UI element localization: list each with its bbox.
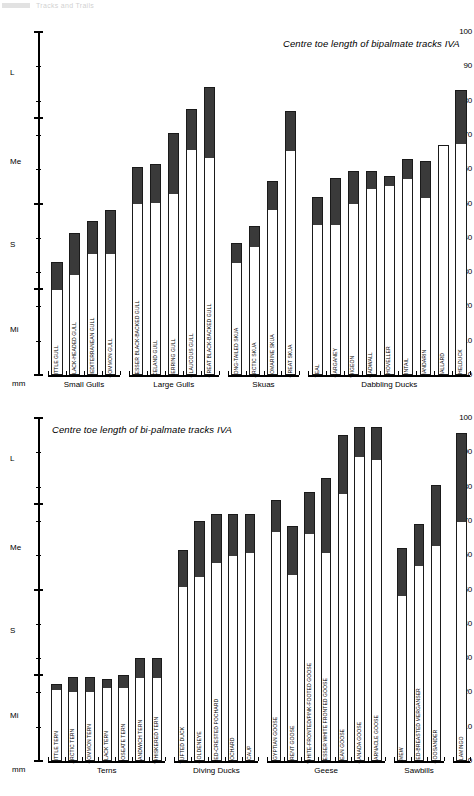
- bar-range-segment: [86, 678, 94, 692]
- bar: [371, 427, 381, 761]
- group-label: Large Gulls: [129, 380, 219, 389]
- bar-range-segment: [119, 676, 127, 688]
- bar: [384, 176, 395, 375]
- bar: [245, 514, 255, 761]
- bar-category-label: COMMON GULL: [108, 338, 113, 377]
- bar-category-label: ARCTIC TERN: [70, 729, 75, 764]
- y-axis-tick: [36, 272, 41, 273]
- group-bracket-tick: [98, 757, 99, 761]
- bar-range-segment: [415, 525, 423, 566]
- group-bracket-tick: [48, 371, 49, 375]
- bar-range-segment: [331, 179, 340, 225]
- group-baseline: [48, 375, 120, 377]
- bar: [456, 433, 466, 761]
- group-bracket-tick: [258, 757, 259, 761]
- group-bracket-tick: [434, 371, 435, 375]
- group-bracket-tick: [174, 757, 175, 761]
- bar: [438, 145, 449, 375]
- group-baseline: [308, 375, 470, 377]
- group-bracket-tick: [416, 371, 417, 375]
- group-bracket-tick: [191, 757, 192, 761]
- bar-category-label: HERRING GULL: [170, 339, 175, 378]
- size-class-label: Me: [10, 544, 21, 552]
- group-bracket-tick: [284, 757, 285, 761]
- y-axis-tick-label: 100: [442, 414, 472, 422]
- group-label: Diving Ducks: [174, 766, 258, 775]
- plot-area-top: 0102030405060708090100mmLMeSMiCentre toe…: [0, 14, 472, 396]
- bar: [397, 548, 407, 761]
- bar-range-segment: [52, 263, 61, 290]
- bar-category-label: POCHARD: [230, 738, 235, 764]
- bar-category-label: SANDWICH TERN: [137, 720, 142, 764]
- group-bracket-tick: [208, 757, 209, 761]
- group-bracket-tick: [301, 757, 302, 761]
- y-axis-tick: [34, 674, 43, 676]
- group-bracket-tick: [48, 757, 49, 761]
- group-bracket-tick: [452, 371, 453, 375]
- bar-range-segment: [88, 222, 97, 255]
- bar-category-label: POMARINE SKUA: [269, 334, 274, 377]
- chart-title: Centre toe length of bi-palmate tracks I…: [52, 424, 232, 435]
- plot-area-bottom: 0102030405060708090100mmLMeSMiCentre toe…: [0, 400, 472, 796]
- chart-bi-palmate: 0102030405060708090100mmLMeSMiCentre toe…: [0, 400, 472, 796]
- group-bracket-tick: [84, 371, 85, 375]
- bar-category-label: FLAMINGO: [458, 736, 463, 763]
- bar-category-label: GOOSANDER: [433, 730, 438, 764]
- y-axis-tick: [34, 417, 43, 419]
- y-axis-tick: [36, 66, 41, 67]
- group-bracket-tick: [66, 371, 67, 375]
- chart-bipalmate: 0102030405060708090100mmLMeSMiCentre toe…: [0, 14, 472, 396]
- bar-category-label: GLAUCOUS GULL: [188, 333, 193, 377]
- group-baseline: [453, 761, 470, 763]
- bar-range-segment: [187, 110, 196, 149]
- size-class-label: Mi: [10, 326, 18, 334]
- group-bracket-tick: [115, 757, 116, 761]
- group-bracket-tick: [281, 371, 282, 375]
- bar-range-segment: [229, 515, 237, 556]
- bar-category-label: LESSER BLACK-BACKED GULL: [135, 301, 140, 378]
- bar-category-label: GOLDENEYE: [196, 731, 201, 763]
- bar-range-segment: [232, 244, 241, 263]
- bar-category-label: GREAT BLACK-BACKED GULL: [206, 304, 211, 378]
- bar-range-segment: [136, 659, 144, 678]
- bar-range-segment: [305, 493, 313, 534]
- group-bracket-tick: [165, 371, 166, 375]
- size-class-label: L: [10, 69, 14, 77]
- page-header: Tracks and Trails: [0, 0, 474, 10]
- bar-category-label: EGYPTIAN GOOSE: [273, 717, 278, 764]
- group-bracket-tick: [82, 757, 83, 761]
- bar-range-segment: [153, 659, 161, 678]
- y-axis-unit-label: mm: [12, 765, 25, 774]
- bar-category-label: RED-BREASTED MERGANSER: [416, 688, 421, 763]
- bar-range-segment: [69, 678, 77, 692]
- group-bracket-tick: [219, 371, 220, 375]
- bar-category-label: BARNACLE GOOSE: [373, 715, 378, 763]
- bar: [338, 435, 348, 761]
- bar-range-segment: [403, 160, 412, 179]
- group-bracket-tick: [225, 757, 226, 761]
- bar-category-label: BEAN GOOSE: [340, 729, 345, 763]
- y-axis-tick: [36, 521, 41, 522]
- bar: [312, 197, 323, 375]
- group-bracket-tick: [368, 757, 369, 761]
- bar-range-segment: [179, 551, 187, 587]
- bar-range-segment: [52, 685, 60, 690]
- group-bracket-tick: [165, 757, 166, 761]
- bar: [285, 111, 296, 375]
- y-axis-tick-label: 100: [442, 28, 472, 36]
- group-baseline: [228, 375, 300, 377]
- size-class-label: Me: [10, 158, 21, 166]
- bar-range-segment: [372, 428, 380, 461]
- y-axis-tick: [36, 135, 41, 136]
- bar-category-label: ROSEATE TERN: [120, 724, 125, 764]
- bar-range-segment: [367, 172, 376, 189]
- bar: [455, 90, 466, 375]
- size-class-label: L: [10, 455, 14, 463]
- y-axis-tick: [34, 31, 43, 33]
- y-axis-tick-label: 90: [442, 62, 472, 70]
- y-axis-tick: [36, 692, 41, 693]
- group-bracket-tick: [228, 371, 229, 375]
- group-bracket-tick: [394, 757, 395, 761]
- y-axis-tick: [34, 589, 43, 591]
- bar-category-label: MANDARIN: [422, 350, 427, 378]
